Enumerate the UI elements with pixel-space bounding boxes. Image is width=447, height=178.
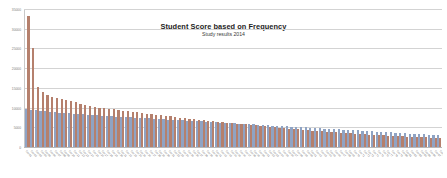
x-axis-tick: Cat 88 (438, 149, 443, 178)
y-axis-tick-label: 0 (19, 146, 21, 150)
y-axis-tick-label: 35000 (12, 8, 21, 12)
y-axis-tick-label: 30000 (12, 28, 21, 32)
y-axis-tick-label: 10000 (12, 107, 21, 111)
x-axis-line (24, 147, 442, 148)
y-axis-tick-label: 5000 (14, 126, 21, 130)
plot-area: 05000100001500020000250003000035000 (24, 10, 442, 148)
y-axis-tick-label: 15000 (12, 87, 21, 91)
x-axis-tick-labels: Cat 01Cat 02Cat 03Cat 04Cat 05Cat 06Cat … (25, 149, 443, 178)
bar-series-layer (25, 10, 442, 147)
bar-group (437, 10, 442, 147)
y-axis-tick-label: 20000 (12, 67, 21, 71)
chart-container: Student Score based on Frequency Study r… (0, 0, 447, 178)
y-axis-tick-label: 25000 (12, 47, 21, 51)
x-axis-tick-label: Cat 88 (438, 150, 443, 158)
bar-series-2 (439, 138, 441, 147)
